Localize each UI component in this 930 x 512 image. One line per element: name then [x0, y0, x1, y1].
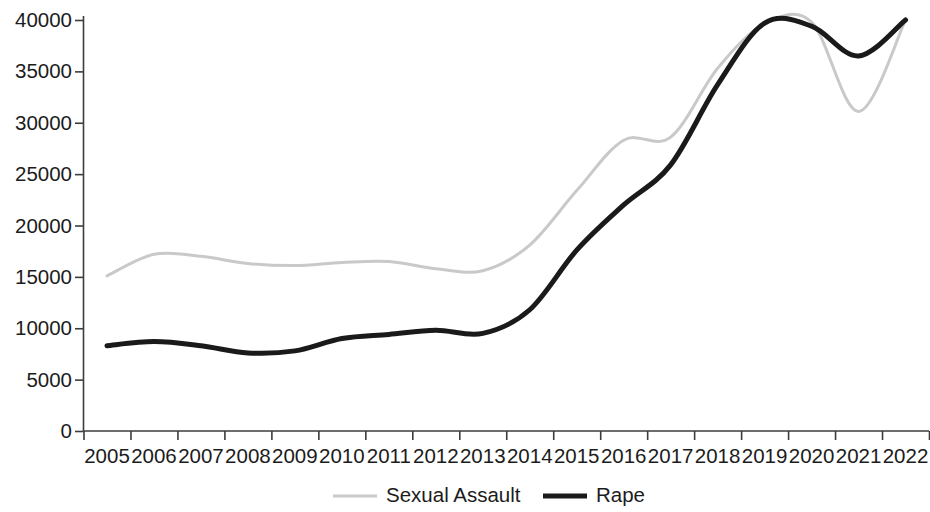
x-axis-tick-label: 2020 — [789, 444, 835, 467]
series-line-rape — [107, 18, 906, 353]
x-axis-tick-label: 2014 — [507, 444, 553, 467]
x-axis-tick-label: 2022 — [883, 444, 929, 467]
x-axis-tick-label: 2006 — [131, 444, 177, 467]
series-line-sexual-assault — [107, 14, 906, 276]
series-lines — [107, 14, 906, 353]
legend-label-sexual-assault: Sexual Assault — [386, 483, 521, 506]
y-axis-tick-label: 5000 — [26, 368, 72, 391]
x-axis-tick-label: 2021 — [836, 444, 882, 467]
y-axis-tick-label: 35000 — [15, 59, 72, 82]
x-axis-tick-label: 2019 — [742, 444, 788, 467]
x-axis-tick-label: 2017 — [648, 444, 694, 467]
x-axis-tick-label: 2015 — [554, 444, 600, 467]
y-axis-tick-label: 0 — [61, 419, 72, 442]
x-axis-tick-label: 2010 — [319, 444, 365, 467]
chart-canvas: 0500010000150002000025000300003500040000… — [0, 0, 930, 512]
axis-tick-marks — [75, 21, 930, 441]
legend-label-rape: Rape — [596, 483, 645, 506]
x-axis-tick-label: 2011 — [367, 444, 411, 467]
y-axis-tick-labels: 0500010000150002000025000300003500040000 — [15, 8, 72, 442]
x-axis-tick-label: 2007 — [178, 444, 224, 467]
chart-legend: Sexual AssaultRape — [333, 483, 645, 506]
x-axis-tick-label: 2012 — [413, 444, 459, 467]
x-axis-tick-label: 2008 — [225, 444, 271, 467]
x-axis-tick-label: 2005 — [84, 444, 130, 467]
x-axis-tick-label: 2018 — [695, 444, 741, 467]
y-axis-tick-label: 30000 — [15, 111, 72, 134]
x-axis-tick-label: 2009 — [272, 444, 318, 467]
y-axis-tick-label: 25000 — [15, 162, 72, 185]
y-axis-tick-label: 20000 — [15, 214, 72, 237]
x-axis-tick-label: 2013 — [460, 444, 506, 467]
y-axis-tick-label: 40000 — [15, 8, 72, 31]
x-axis-tick-labels: 2005200620072008200920102011201220132014… — [84, 444, 928, 467]
y-axis-tick-label: 15000 — [15, 265, 72, 288]
line-chart: 0500010000150002000025000300003500040000… — [0, 0, 930, 512]
y-axis-tick-label: 10000 — [15, 316, 72, 339]
x-axis-tick-label: 2016 — [601, 444, 647, 467]
